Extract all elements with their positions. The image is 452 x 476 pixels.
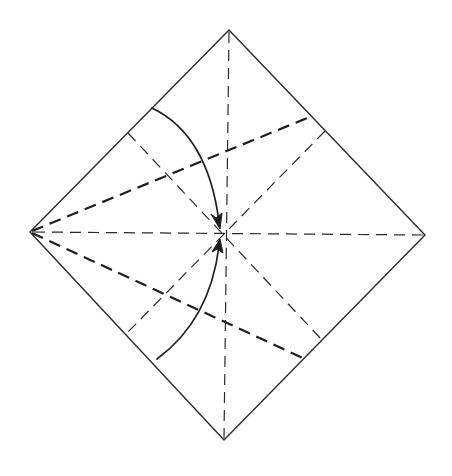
crease-horizontal-diagonal xyxy=(34,232,423,235)
crease-lower-bisector-fold xyxy=(32,233,305,359)
lower-fold-arrow xyxy=(157,246,219,359)
crease-upper-bisector-fold xyxy=(32,116,312,231)
crease-vertical-diagonal xyxy=(224,32,229,438)
upper-fold-arrow xyxy=(152,108,219,222)
origami-diagram xyxy=(0,0,452,476)
